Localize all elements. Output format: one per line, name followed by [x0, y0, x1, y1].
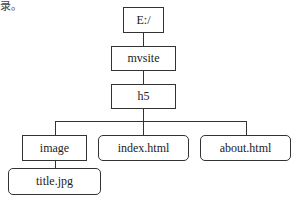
node-index-html-file: index.html	[98, 135, 189, 161]
connector-image-title	[55, 160, 56, 168]
node-root-folder: E:/	[123, 7, 164, 33]
caption-fragment: 录。	[0, 0, 22, 13]
connector-mvsite-h5	[143, 70, 144, 84]
node-image-folder: image	[22, 135, 87, 161]
node-mvsite-folder: mvsite	[111, 46, 176, 71]
connector-bus-image	[55, 121, 56, 135]
connector-bus	[55, 121, 247, 122]
node-title-jpg-file: title.jpg	[8, 168, 101, 195]
node-about-html-file: about.html	[200, 135, 291, 161]
connector-root-mvsite	[143, 32, 144, 46]
connector-bus-about	[246, 121, 247, 135]
node-h5-folder: h5	[111, 84, 176, 109]
